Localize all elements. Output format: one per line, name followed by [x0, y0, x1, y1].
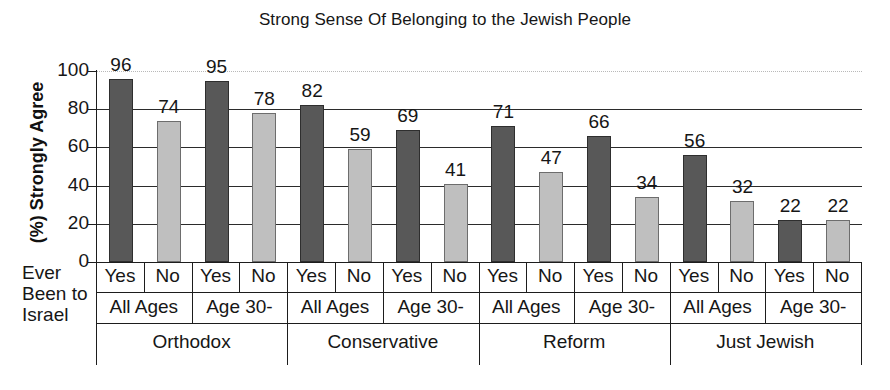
- bar-just-jewish-age-30--yes: [778, 220, 802, 262]
- cell-label-age-range: Age 30-: [192, 296, 288, 318]
- bar-value-label: 69: [380, 105, 436, 127]
- cell-label-yes-no: No: [144, 265, 192, 287]
- y-tick-label-60: 60: [29, 135, 89, 157]
- bar-reform-age-30--no: [635, 197, 659, 262]
- bar-value-label: 22: [810, 195, 866, 217]
- cell-label-age-range: Age 30-: [574, 296, 670, 318]
- bar-conservative-all-ages-yes: [300, 105, 324, 262]
- table-border-right: [861, 262, 862, 365]
- cell-label-yes-no: No: [813, 265, 861, 287]
- table-vertical-separator-subgroup: [383, 262, 384, 323]
- y-tick-mark-60: [88, 147, 97, 148]
- cell-label-yes-no: Yes: [479, 265, 527, 287]
- table-vertical-separator-inner: [813, 262, 814, 292]
- y-tick-mark-80: [88, 109, 97, 110]
- table-vertical-separator-inner: [431, 262, 432, 292]
- bar-value-label: 34: [619, 172, 675, 194]
- y-tick-label-100: 100: [29, 59, 89, 81]
- table-vertical-separator-group: [479, 262, 480, 365]
- bar-reform-all-ages-no: [539, 172, 563, 262]
- cell-label-yes-no: Yes: [765, 265, 813, 287]
- bar-just-jewish-all-ages-no: [730, 201, 754, 262]
- cell-label-yes-no: Yes: [574, 265, 622, 287]
- y-tick-mark-20: [88, 224, 97, 225]
- table-vertical-separator-subgroup: [765, 262, 766, 323]
- bar-value-label: 66: [571, 111, 627, 133]
- bar-value-label: 95: [189, 56, 245, 78]
- cell-label-denomination: Orthodox: [96, 331, 287, 353]
- y-tick-label-0: 0: [29, 250, 89, 272]
- cell-label-age-range: All Ages: [287, 296, 383, 318]
- chart-title: Strong Sense Of Belonging to the Jewish …: [0, 10, 890, 30]
- table-vertical-separator-inner: [526, 262, 527, 292]
- row-header-line-3: Israel: [22, 304, 98, 325]
- bar-value-label: 96: [93, 54, 149, 76]
- cell-label-age-range: Age 30-: [383, 296, 479, 318]
- y-tick-label-40: 40: [29, 174, 89, 196]
- y-tick-label-80: 80: [29, 97, 89, 119]
- bar-value-label: 56: [667, 130, 723, 152]
- cell-label-yes-no: Yes: [192, 265, 240, 287]
- table-vertical-separator-inner: [239, 262, 240, 292]
- table-vertical-separator-subgroup: [574, 262, 575, 323]
- chart-figure: Strong Sense Of Belonging to the Jewish …: [0, 0, 890, 390]
- bar-reform-all-ages-yes: [491, 126, 515, 262]
- y-tick-label-20: 20: [29, 212, 89, 234]
- cell-label-denomination: Reform: [479, 331, 670, 353]
- bar-orthodox-all-ages-yes: [109, 79, 133, 262]
- cell-label-yes-no: Yes: [287, 265, 335, 287]
- cell-label-denomination: Conservative: [287, 331, 478, 353]
- cell-label-yes-no: Yes: [96, 265, 144, 287]
- table-vertical-separator-inner: [622, 262, 623, 292]
- bar-just-jewish-all-ages-yes: [683, 155, 707, 262]
- cell-label-age-range: Age 30-: [765, 296, 861, 318]
- bar-orthodox-age-30--yes: [205, 81, 229, 262]
- row-header-line-2: Been to: [22, 283, 98, 304]
- bar-value-label: 59: [332, 124, 388, 146]
- cell-label-yes-no: No: [622, 265, 670, 287]
- cell-label-age-range: All Ages: [479, 296, 575, 318]
- table-vertical-separator-inner: [718, 262, 719, 292]
- bar-conservative-all-ages-no: [348, 149, 372, 262]
- y-axis-label: (%) Strongly Agree: [27, 58, 48, 268]
- bar-conservative-age-30--no: [444, 184, 468, 262]
- bar-just-jewish-age-30--no: [826, 220, 850, 262]
- cell-label-yes-no: No: [431, 265, 479, 287]
- table-vertical-separator-group: [670, 262, 671, 365]
- cell-label-yes-no: No: [239, 265, 287, 287]
- bar-value-label: 71: [475, 101, 531, 123]
- table-vertical-separator-subgroup: [192, 262, 193, 323]
- table-vertical-separator-inner: [335, 262, 336, 292]
- bar-orthodox-all-ages-no: [157, 121, 181, 262]
- table-vertical-separator-group: [287, 262, 288, 365]
- cell-label-yes-no: Yes: [383, 265, 431, 287]
- bar-reform-age-30--yes: [587, 136, 611, 262]
- cell-label-yes-no: No: [718, 265, 766, 287]
- bar-value-label: 41: [428, 159, 484, 181]
- cell-label-denomination: Just Jewish: [670, 331, 861, 353]
- y-tick-mark-40: [88, 186, 97, 187]
- category-label-table: YesNoAll AgesYesNoAge 30-OrthodoxYesNoAl…: [96, 262, 862, 365]
- bar-value-label: 47: [523, 147, 579, 169]
- table-vertical-separator-inner: [144, 262, 145, 292]
- bar-orthodox-age-30--no: [252, 113, 276, 262]
- cell-label-age-range: All Ages: [96, 296, 192, 318]
- bar-conservative-age-30--yes: [396, 130, 420, 262]
- cell-label-age-range: All Ages: [670, 296, 766, 318]
- bar-value-label: 74: [141, 96, 197, 118]
- cell-label-yes-no: No: [526, 265, 574, 287]
- cell-label-yes-no: Yes: [670, 265, 718, 287]
- cell-label-yes-no: No: [335, 265, 383, 287]
- bar-value-label: 82: [284, 80, 340, 102]
